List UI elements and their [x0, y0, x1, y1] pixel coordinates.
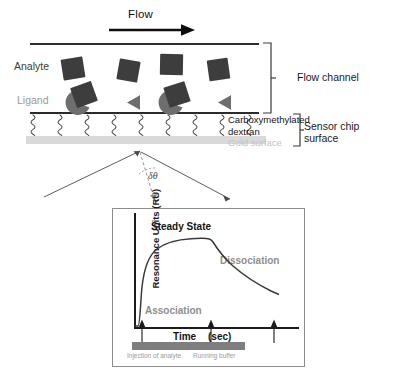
flow-label: Flow — [128, 8, 153, 20]
light-beam-icon — [40, 143, 290, 211]
angle-shift-label: δθ — [148, 170, 158, 181]
flow-channel-top-wall — [30, 43, 259, 45]
pacman-icon — [205, 90, 231, 115]
pacman-icon — [114, 90, 140, 115]
square-icon — [60, 56, 85, 80]
square-icon — [160, 54, 183, 75]
analyte-label: Analyte — [14, 60, 49, 72]
injection-of-analyte-label: Injection of analyte — [127, 352, 181, 359]
time-axis-label: Time — [173, 331, 196, 342]
running-buffer-label: Running buffer — [193, 352, 236, 359]
time-unit-label: (sec) — [208, 331, 231, 342]
flow-channel-bracket — [262, 42, 276, 114]
sensor-chip-label-line2: surface — [304, 132, 338, 144]
dextran-label: dextran — [228, 126, 260, 137]
arrow-right-icon — [107, 22, 197, 38]
ligand-label: Ligand — [17, 94, 49, 106]
injection-phase-bar — [132, 342, 245, 350]
carboxymethylated-label: Carboxymethylated — [228, 114, 310, 125]
square-icon — [207, 58, 231, 82]
square-icon — [116, 58, 140, 82]
squiggle-icon — [30, 114, 258, 138]
sensor-chip-label-line1: Sensor chip — [304, 120, 359, 132]
flow-channel-label: Flow channel — [297, 71, 359, 83]
sensorgram-chart: Resonance Units (RU) Steady State Dissoc… — [112, 208, 305, 367]
spr-diagram: Flow Analyte Ligand — [0, 0, 400, 377]
